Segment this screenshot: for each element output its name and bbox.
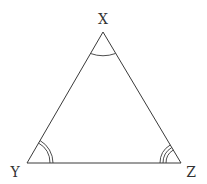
triangle-diagram: X Y Z (0, 0, 207, 184)
vertex-label-z: Z (186, 164, 196, 180)
edge-zx (103, 32, 181, 163)
triangle-svg: X Y Z (0, 0, 207, 184)
angle-mark-x-arc-1 (91, 54, 116, 56)
vertex-label-x: X (98, 11, 108, 27)
vertex-label-y: Y (9, 164, 20, 180)
angle-mark-y-arc-1 (39, 143, 51, 163)
angle-mark-y-arc-2 (40, 141, 53, 164)
